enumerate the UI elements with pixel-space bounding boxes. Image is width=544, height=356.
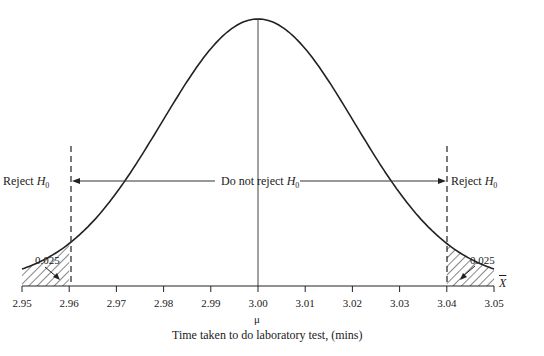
arrow-left-icon — [72, 178, 80, 184]
x-tick-label: 3.04 — [437, 296, 456, 310]
x-axis-title: Time taken to do laboratory test, (mins) — [172, 328, 363, 342]
reject-right-label: Reject H0 — [451, 174, 497, 193]
tail-area-left-label: 0.025 — [35, 253, 60, 267]
arrow-right-icon — [438, 178, 446, 184]
x-tick-label: 3.00 — [248, 296, 267, 310]
reject-left-label: Reject H0 — [3, 174, 49, 193]
do-not-reject-label: Do not reject H0 — [221, 174, 299, 193]
x-tick-label: 3.02 — [343, 296, 362, 310]
x-tick-label: 2.99 — [201, 296, 220, 310]
xbar-symbol: X — [499, 276, 506, 290]
x-tick-label: 3.05 — [484, 296, 503, 310]
mu-label: μ — [254, 312, 260, 326]
x-tick-label: 2.95 — [12, 296, 31, 310]
tail-area-right-label: 0.025 — [470, 253, 495, 267]
x-tick-label: 2.97 — [107, 296, 126, 310]
x-axis-ticks — [22, 286, 494, 292]
x-tick-label: 3.01 — [296, 296, 315, 310]
x-tick-label: 3.03 — [390, 296, 409, 310]
x-tick-label: 2.96 — [60, 296, 79, 310]
x-tick-label: 2.98 — [154, 296, 173, 310]
